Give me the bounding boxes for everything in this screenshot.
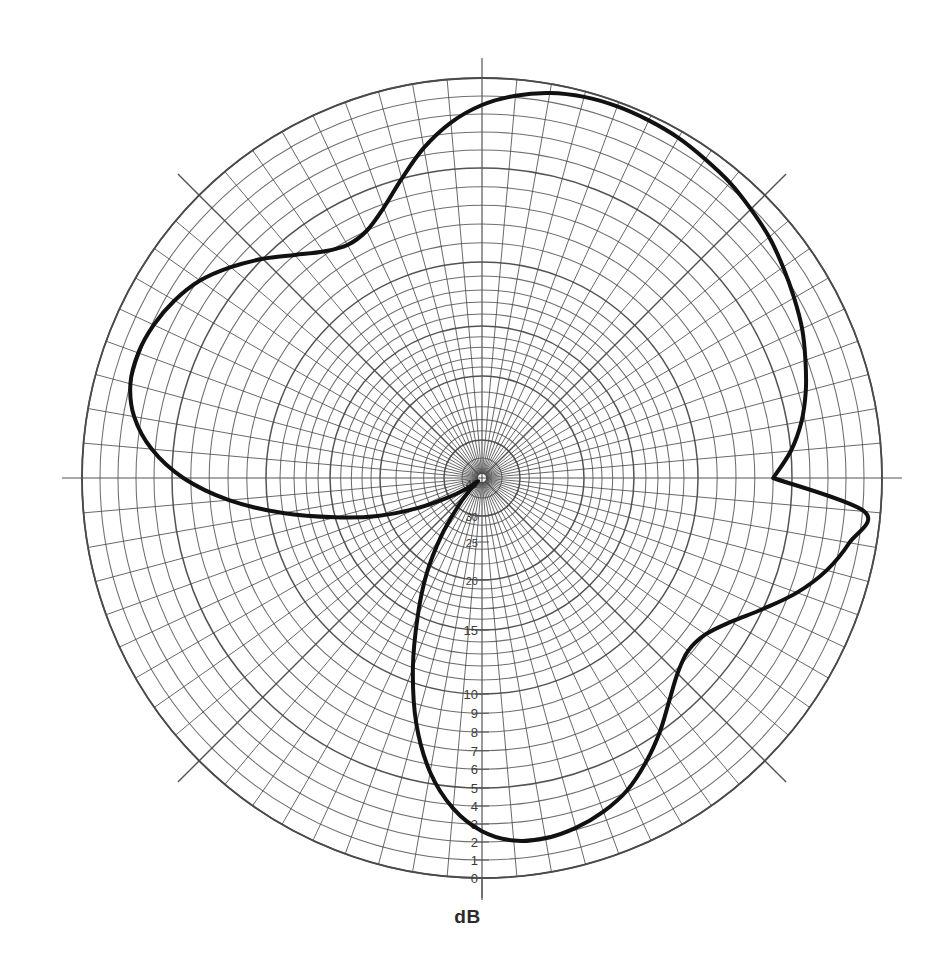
grid-spoke	[484, 132, 682, 474]
grid-spoke	[486, 278, 828, 476]
grid-spoke	[178, 481, 479, 782]
grid-spoke	[282, 482, 480, 824]
polar-chart: 0123456789101520253040 dB	[0, 0, 935, 966]
radial-axis-unit-label: dB	[0, 906, 935, 928]
grid-spoke	[486, 480, 828, 678]
grid-spoke	[485, 481, 786, 782]
grid-spoke	[178, 174, 479, 475]
grid-spoke	[484, 482, 682, 824]
grid-spoke	[136, 278, 478, 476]
radial-tick-label: 30	[466, 511, 478, 523]
radial-tick-label: 25	[466, 537, 478, 549]
radial-tick-labels: 0123456789101520253040	[464, 478, 489, 886]
grid-spoke	[282, 132, 480, 474]
radial-tick-label: 20	[466, 575, 478, 587]
polar-plot-svg: 0123456789101520253040	[0, 0, 935, 966]
grid-spoke	[485, 174, 786, 475]
